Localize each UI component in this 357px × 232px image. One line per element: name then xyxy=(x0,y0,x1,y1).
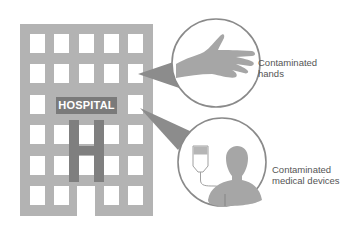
hospital-sign: HOSPITAL xyxy=(56,97,117,114)
label-line: medical devices xyxy=(272,175,340,186)
diagram-canvas xyxy=(0,0,357,232)
hands-callout-circle xyxy=(172,19,260,107)
label-line: hands xyxy=(258,68,317,79)
label-contaminated-devices: Contaminated medical devices xyxy=(272,164,340,186)
label-line: Contaminated xyxy=(258,57,317,68)
label-line: Contaminated xyxy=(272,164,340,175)
devices-callout-circle xyxy=(178,118,266,206)
hospital-building xyxy=(20,24,153,216)
label-contaminated-hands: Contaminated hands xyxy=(258,57,317,79)
